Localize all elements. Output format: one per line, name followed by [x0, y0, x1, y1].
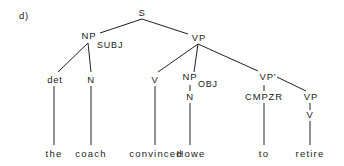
node-v: V	[151, 75, 158, 85]
node-det: det	[47, 75, 63, 85]
word-howe: Howe	[176, 149, 205, 159]
edge-vpprime-vp	[277, 77, 306, 91]
node-np-obj: NP	[183, 72, 198, 82]
edge-s-vp	[142, 19, 188, 34]
panel-label: d)	[19, 11, 29, 21]
edge-vp-v	[158, 44, 198, 72]
node-subj-label: SUBJ	[97, 41, 123, 50]
word-the: the	[46, 149, 63, 159]
word-convinced: convinced	[129, 149, 183, 159]
edge-vp-npobj	[194, 44, 198, 72]
node-n-obj: N	[186, 92, 194, 102]
edge-np-det	[58, 43, 88, 72]
node-obj-label: OBJ	[198, 80, 218, 89]
edge-s-np	[100, 19, 142, 33]
node-vp-prime: VP'	[260, 72, 277, 82]
node-s: S	[138, 8, 145, 18]
node-cmpzr: CMPZR	[245, 92, 283, 102]
edge-np-n	[88, 43, 91, 72]
word-coach: coach	[75, 149, 106, 159]
edge-vp-vpprime	[198, 44, 258, 71]
node-vp-inner: VP	[304, 92, 318, 102]
word-to: to	[259, 149, 269, 159]
word-retire: retire	[296, 149, 325, 159]
node-n-subj: N	[87, 75, 95, 85]
node-vp: VP	[192, 33, 206, 43]
node-np-subj: NP	[82, 31, 97, 41]
node-v-inner: V	[306, 110, 313, 120]
